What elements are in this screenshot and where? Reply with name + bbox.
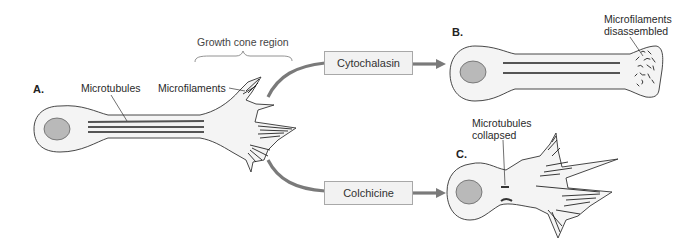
microfilaments-label: Microfilaments [158,82,226,94]
cell-a-nucleus [44,118,70,140]
arc-to-colchicine [268,160,325,191]
panel-c-label: C. [456,148,467,160]
collapsed-label-line1: Microtubules [472,117,532,129]
neuron-growth-cone-diagram: A. Microtubules Microfilaments Growth co… [0,0,697,240]
cell-c [447,133,618,238]
panel-a-label: A. [33,83,44,95]
cytochalasin-label: Cytochalasin [337,57,400,69]
colchicine-label: Colchicine [343,187,394,199]
colchicine-box: Colchicine [324,181,413,205]
arc-to-cytochalasin [268,63,325,97]
panel-b-label: B. [452,26,463,38]
growth-cone-label: Growth cone region [197,36,289,48]
arrow-to-b [413,59,446,69]
growth-cone-brace [195,51,292,62]
disassembled-label-line1: Microfilaments [604,13,672,25]
cell-c-nucleus [456,180,482,204]
cell-b [450,37,663,101]
arrow-to-c [413,188,446,198]
disassembled-label-line2: disassembled [604,25,668,37]
cell-b-nucleus [460,61,486,83]
collapsed-label-line2: collapsed [472,129,516,141]
microtubules-label: Microtubules [81,82,141,94]
cytochalasin-box: Cytochalasin [324,51,413,75]
